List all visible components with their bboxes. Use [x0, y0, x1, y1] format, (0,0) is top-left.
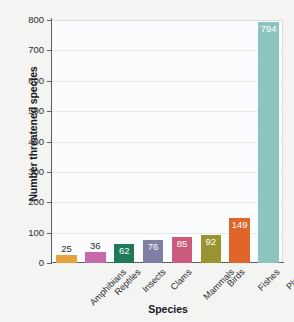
bar-group-insects[interactable]: 62	[114, 20, 135, 263]
bar-group-mammals[interactable]: 85	[172, 20, 193, 263]
y-tick-label-600: 600	[4, 75, 44, 86]
x-axis-title: Species	[52, 303, 284, 315]
bar-value-label-fishes: 149	[229, 219, 250, 230]
bar-amphibians[interactable]	[56, 255, 77, 263]
category-label-fishes: Fishes	[255, 267, 281, 293]
y-tick-label-300: 300	[4, 166, 44, 177]
bar-plants[interactable]	[258, 22, 279, 263]
bar-group-amphibians[interactable]: 25	[56, 20, 77, 263]
y-tick-label-800: 800	[4, 14, 44, 25]
x-axis-category-labels: AmphibiansReptilesInsectsClamsMammalsBir…	[52, 265, 283, 305]
bar-group-fishes[interactable]: 149	[229, 20, 250, 263]
category-label-plants: Plants	[284, 267, 294, 292]
y-tick-label-200: 200	[4, 196, 44, 207]
bars-layer: 253662768592149794	[52, 20, 283, 263]
y-tick-mark-0	[47, 263, 52, 264]
bar-value-label-reptiles: 36	[85, 240, 106, 251]
bar-value-label-clams: 76	[143, 241, 164, 252]
bar-value-label-mammals: 85	[172, 238, 193, 249]
y-tick-label-400: 400	[4, 136, 44, 147]
y-tick-label-0: 0	[4, 257, 44, 268]
y-tick-label-500: 500	[4, 105, 44, 116]
bar-value-label-insects: 62	[114, 245, 135, 256]
bar-value-label-birds: 92	[201, 236, 222, 247]
bar-group-clams[interactable]: 76	[143, 20, 164, 263]
bar-chart: Number threatened species 01002003004005…	[0, 0, 294, 322]
category-label-insects: Insects	[141, 267, 168, 294]
bar-value-label-amphibians: 25	[56, 243, 77, 254]
bar-reptiles[interactable]	[85, 252, 106, 263]
bar-group-birds[interactable]: 92	[201, 20, 222, 263]
category-label-clams: Clams	[169, 267, 194, 292]
bar-group-reptiles[interactable]: 36	[85, 20, 106, 263]
y-tick-label-700: 700	[4, 44, 44, 55]
bar-value-label-plants: 794	[258, 23, 279, 34]
bar-group-plants[interactable]: 794	[258, 20, 279, 263]
y-tick-label-100: 100	[4, 227, 44, 238]
